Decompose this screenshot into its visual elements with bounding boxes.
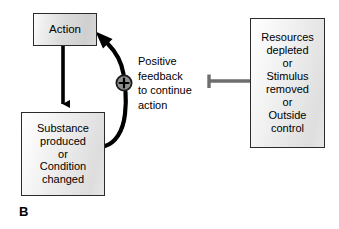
node-substance-line-5: changed (24, 173, 102, 186)
node-resources-line-8: control (253, 122, 322, 135)
node-resources-line-5: removed (253, 83, 322, 96)
node-substance-line-3: or (24, 148, 102, 161)
node-resources-depleted[interactable]: Resources depleted or Stimulus removed o… (250, 18, 325, 148)
node-substance-line-1: Substance (24, 122, 102, 135)
node-resources-line-1: Resources (253, 31, 322, 44)
feedback-label-line-4: action (138, 98, 206, 113)
feedback-label-line-3: to continue (138, 83, 206, 98)
node-resources-line-2: depleted (253, 44, 322, 57)
curve-plus-to-action-arrowhead (96, 32, 124, 75)
feedback-label-line-2: feedback (138, 69, 206, 84)
node-resources-line-7: Outside (253, 109, 322, 122)
plus-sign-icon (115, 74, 133, 92)
node-action[interactable]: Action (33, 13, 97, 46)
figure-canvas: Action Substance produced or Condition c… (0, 0, 339, 229)
node-substance-line-4: Condition (24, 160, 102, 173)
curve-substance-to-plus (105, 92, 126, 146)
feedback-label-line-1: Positive (138, 54, 206, 69)
node-resources-line-4: Stimulus (253, 70, 322, 83)
feedback-label: Positive feedback to continue action (138, 54, 206, 113)
panel-letter: B (19, 204, 29, 219)
inhibition-connector (209, 75, 250, 89)
node-resources-line-3: or (253, 57, 322, 70)
node-substance-line-2: produced (24, 135, 102, 148)
node-substance-produced[interactable]: Substance produced or Condition changed (21, 112, 105, 196)
node-resources-line-6: or (253, 96, 322, 109)
node-action-line: Action (36, 23, 94, 37)
